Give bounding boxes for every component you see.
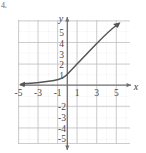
x-tick-label-3: 3 — [94, 88, 99, 98]
y-tick-label-neg3: -3 — [58, 113, 66, 123]
y-tick-label-2: 2 — [59, 60, 64, 70]
y-axis-label: y — [58, 13, 64, 24]
y-tick-label-4: 4 — [59, 39, 64, 49]
x-tick-label-5: 5 — [114, 88, 119, 98]
y-tick-label-neg2: -2 — [58, 102, 66, 112]
y-tick-label-neg5: -5 — [58, 134, 66, 144]
x-tick-label-neg1: -1 — [54, 88, 62, 98]
x-tick-label-neg3: -3 — [34, 88, 42, 98]
exponential-graph-figure: 4. — [0, 0, 146, 153]
x-tick-label-neg5: -5 — [15, 88, 23, 98]
y-tick-label-neg4: -4 — [58, 124, 66, 134]
x-tick-label-1: 1 — [75, 88, 80, 98]
grid-dotted-fine — [18, 20, 130, 144]
y-tick-label-5: 5 — [59, 28, 64, 38]
coordinate-plane: -5 -3 -1 1 3 5 5 4 3 2 1 -2 -3 -4 -5 x y — [0, 0, 146, 153]
y-tick-label-3: 3 — [59, 50, 64, 60]
x-axis-label: x — [133, 81, 139, 92]
